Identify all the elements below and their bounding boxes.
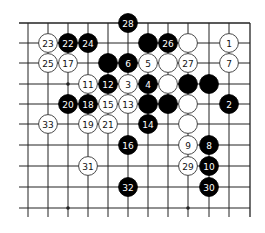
move-number: 16 <box>122 141 134 151</box>
move-number: 24 <box>82 39 94 49</box>
white-stone: 13 <box>119 95 138 114</box>
move-number: 17 <box>62 59 73 69</box>
move-number: 1 <box>226 39 232 49</box>
move-number: 22 <box>62 39 73 49</box>
black-stone <box>159 95 178 114</box>
black-stone: 8 <box>200 136 219 155</box>
white-stone <box>179 115 198 134</box>
move-number: 26 <box>162 39 174 49</box>
stones-layer: 2823222426125176527711123420181513233192… <box>39 14 239 197</box>
black-stone: 6 <box>119 54 138 73</box>
white-stone: 9 <box>179 136 198 155</box>
white-stone: 27 <box>179 54 198 73</box>
black-stone: 30 <box>200 178 219 197</box>
black-stone: 22 <box>59 34 78 53</box>
black-stone: 16 <box>119 136 138 155</box>
black-stone: 4 <box>139 75 158 94</box>
black-stone: 20 <box>59 95 78 114</box>
move-number: 21 <box>102 120 113 130</box>
white-stone: 1 <box>220 34 239 53</box>
white-stone: 19 <box>79 115 98 134</box>
move-number: 12 <box>102 80 113 90</box>
move-number: 31 <box>82 162 93 172</box>
black-stone <box>179 75 198 94</box>
move-number: 4 <box>145 80 151 90</box>
move-number: 20 <box>62 100 74 110</box>
move-number: 14 <box>142 120 154 130</box>
move-number: 6 <box>125 59 131 69</box>
move-number: 9 <box>185 141 191 151</box>
white-stone: 17 <box>59 54 78 73</box>
move-number: 23 <box>42 39 53 49</box>
move-number: 29 <box>182 162 194 172</box>
white-stone <box>159 54 178 73</box>
move-number: 18 <box>82 100 94 110</box>
move-number: 2 <box>226 100 232 110</box>
white-stone: 7 <box>220 54 239 73</box>
move-number: 19 <box>82 120 94 130</box>
white-stone: 15 <box>99 95 118 114</box>
black-stone: 18 <box>79 95 98 114</box>
black-stone: 14 <box>139 115 158 134</box>
move-number: 13 <box>122 100 133 110</box>
star-point <box>66 206 70 210</box>
white-stone: 31 <box>79 157 98 176</box>
move-number: 27 <box>182 59 193 69</box>
star-point <box>66 82 70 86</box>
white-stone: 21 <box>99 115 118 134</box>
black-stone: 26 <box>159 34 178 53</box>
black-stone: 24 <box>79 34 98 53</box>
white-stone: 5 <box>139 54 158 73</box>
white-stone: 11 <box>79 75 98 94</box>
black-stone: 2 <box>220 95 239 114</box>
move-number: 7 <box>226 59 232 69</box>
black-stone: 10 <box>200 157 219 176</box>
white-stone: 23 <box>39 34 58 53</box>
white-stone: 3 <box>119 75 138 94</box>
white-stone: 33 <box>39 115 58 134</box>
go-board[interactable]: 2823222426125176527711123420181513233192… <box>0 0 265 233</box>
move-number: 8 <box>206 141 212 151</box>
white-stone: 25 <box>39 54 58 73</box>
move-number: 15 <box>102 100 113 110</box>
white-stone: 29 <box>179 157 198 176</box>
black-stone: 28 <box>119 14 138 33</box>
black-stone: 32 <box>119 178 138 197</box>
move-number: 33 <box>42 120 53 130</box>
move-number: 5 <box>145 59 151 69</box>
move-number: 11 <box>82 80 93 90</box>
star-point <box>186 206 190 210</box>
move-number: 3 <box>125 80 131 90</box>
move-number: 30 <box>203 183 215 193</box>
move-number: 25 <box>42 59 53 69</box>
black-stone <box>139 95 158 114</box>
white-stone <box>179 34 198 53</box>
black-stone <box>139 34 158 53</box>
move-number: 28 <box>122 19 134 29</box>
black-stone: 12 <box>99 75 118 94</box>
black-stone <box>99 54 118 73</box>
white-stone <box>159 75 178 94</box>
move-number: 10 <box>203 162 215 172</box>
white-stone <box>179 95 198 114</box>
black-stone <box>200 75 219 94</box>
move-number: 32 <box>122 183 133 193</box>
